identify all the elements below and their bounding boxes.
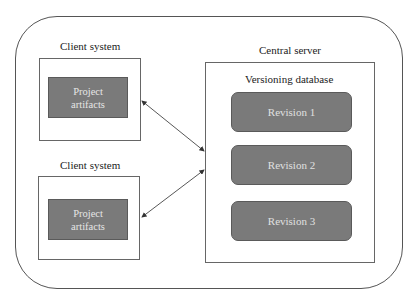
arrow-top-connection — [142, 101, 204, 151]
connection-arrows — [0, 0, 416, 304]
arrow-bottom-connection — [142, 170, 204, 217]
